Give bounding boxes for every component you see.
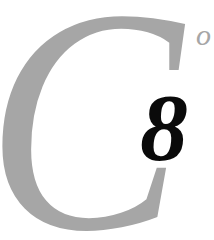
- chapter-number: 8: [140, 80, 188, 176]
- chapter-trailing-letter: o: [196, 20, 211, 50]
